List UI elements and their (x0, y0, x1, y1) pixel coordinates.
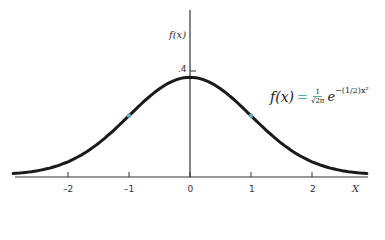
x-ticks: –2–1012 (63, 172, 316, 194)
formula-fraction: 1 √2π (311, 88, 325, 105)
formula-base: e (327, 89, 335, 104)
x-tick-label: 2 (310, 184, 316, 194)
inflection-point-marker (127, 114, 131, 118)
x-tick-label: 0 (188, 184, 194, 194)
y-tick-label: .4 (178, 64, 187, 74)
formula-equals: = (297, 89, 308, 104)
x-tick-label: –1 (124, 184, 134, 194)
formula: f(x) = 1 √2π e −(1/2)x² (270, 88, 369, 105)
x-tick-label: –2 (63, 184, 73, 194)
inflection-point-marker (249, 114, 253, 118)
formula-lhs: f(x) (270, 89, 294, 105)
x-axis-label: X (351, 183, 360, 194)
x-tick-label: 1 (249, 184, 255, 194)
formula-numerator: 1 (313, 88, 321, 97)
formula-denominator: √2π (311, 97, 325, 105)
formula-exponent: −(1/2)x² (335, 86, 369, 95)
y-axis-label: f(x) (168, 29, 186, 40)
